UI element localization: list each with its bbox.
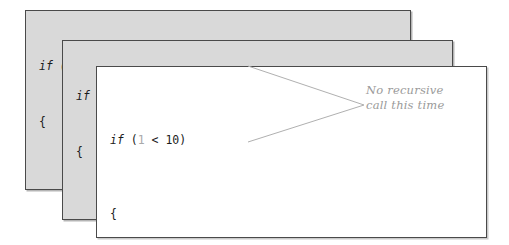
code-line-open-brace: { [110,205,486,224]
code-line-if: if (1 < 10) [110,131,486,150]
if-keyword: if [110,133,124,147]
if-condition-rest: < 10) [145,133,187,147]
annotation-text: No recursive call this time [366,83,488,112]
parameter-value-n: 1 [138,133,145,147]
figure-canvas: if (123 < 10) { } else { } if (12 < 10) … [0,0,509,245]
if-open-paren: ( [131,133,138,147]
